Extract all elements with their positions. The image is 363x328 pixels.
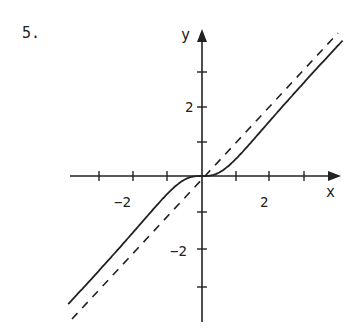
y-axis-label: y [181,26,190,44]
function-curve [68,41,342,305]
y-tick-label-neg2: −2 [170,243,187,259]
x-tick-label-2: 2 [260,194,268,210]
problem-number: 5. [22,24,40,42]
chart-figure: 5. y x −2 2 2 −2 [0,0,363,328]
x-tick-label-neg2: −2 [114,194,131,210]
x-axis-label: x [326,183,335,201]
y-tick-label-2: 2 [185,99,193,115]
x-axis-arrow-icon [328,171,341,181]
y-axis-arrow-icon [197,29,207,42]
